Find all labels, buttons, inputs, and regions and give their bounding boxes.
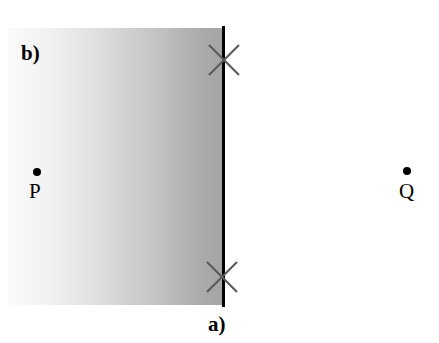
figure-canvas: P Q b) a) <box>0 0 439 343</box>
point-p-dot <box>33 168 41 176</box>
point-p-label: P <box>29 181 41 202</box>
region-b-annotation: b) <box>21 43 40 64</box>
point-q-dot <box>403 167 411 175</box>
shaded-medium-region <box>8 28 223 305</box>
point-q-label: Q <box>399 181 414 202</box>
region-a-annotation: a) <box>208 314 226 335</box>
interface-boundary-line <box>222 26 225 307</box>
